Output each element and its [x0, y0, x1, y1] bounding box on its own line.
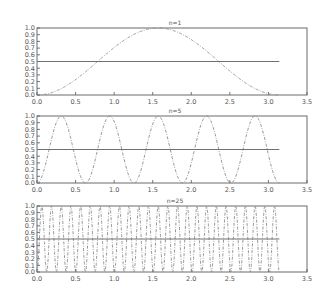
- x-tick-label: 3.0: [263, 98, 273, 106]
- x-tick-label: 3.5: [302, 186, 312, 194]
- subplot-n-25: n=250.00.10.20.30.40.50.60.70.80.91.00.0…: [25, 197, 313, 283]
- x-tick-label: 0.5: [70, 98, 80, 106]
- subplot-n-1: n=10.00.10.20.30.40.50.60.70.80.91.00.00…: [25, 19, 313, 106]
- x-tick-label: 2.0: [186, 186, 196, 194]
- x-tick-label: 2.5: [225, 186, 235, 194]
- x-tick-label: 1.0: [109, 186, 119, 194]
- x-tick-label: 1.5: [148, 186, 158, 194]
- y-tick-label: 1.0: [25, 112, 35, 120]
- x-tick-label: 0.0: [32, 275, 42, 283]
- x-tick-label: 2.0: [186, 275, 196, 283]
- x-tick-label: 2.0: [186, 98, 196, 106]
- chart-figure: n=10.00.10.20.30.40.50.60.70.80.91.00.00…: [0, 0, 326, 298]
- x-tick-label: 3.5: [302, 275, 312, 283]
- x-tick-label: 0.5: [70, 186, 80, 194]
- subplot-title: n=25: [167, 197, 184, 204]
- subplot-title: n=5: [169, 107, 182, 114]
- x-tick-label: 2.5: [225, 98, 235, 106]
- x-tick-label: 3.0: [263, 186, 273, 194]
- y-tick-label: 1.0: [25, 24, 35, 32]
- x-tick-label: 3.5: [302, 98, 312, 106]
- x-tick-label: 2.5: [225, 275, 235, 283]
- x-tick-label: 1.0: [109, 98, 119, 106]
- x-tick-label: 3.0: [263, 275, 273, 283]
- subplot-title: n=1: [169, 19, 182, 26]
- x-tick-label: 0.0: [32, 98, 42, 106]
- x-tick-label: 1.0: [109, 275, 119, 283]
- x-tick-label: 1.5: [148, 275, 158, 283]
- subplot-n-5: n=50.00.10.20.30.40.50.60.70.80.91.00.00…: [25, 107, 313, 194]
- x-tick-label: 0.5: [70, 275, 80, 283]
- x-tick-label: 0.0: [32, 186, 42, 194]
- y-tick-label: 1.0: [25, 202, 35, 210]
- x-tick-label: 1.5: [148, 98, 158, 106]
